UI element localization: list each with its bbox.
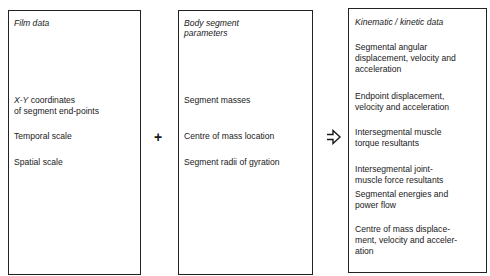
centre-of-mass-location-label: Centre of mass location <box>184 131 274 142</box>
segmental-angular-line3: acceleration <box>355 64 401 75</box>
film-data-title: Film data <box>14 18 49 28</box>
segmental-energies-line2: power flow <box>355 200 396 211</box>
body-segment-parameters-box: Body segment parameters Segment masses C… <box>178 10 313 275</box>
hollow-right-arrow-icon <box>326 129 342 145</box>
segmental-angular-line2: displacement, velocity and <box>355 53 456 64</box>
endpoint-displacement-line1: Endpoint displacement, <box>355 91 444 102</box>
segment-radii-of-gyration-label: Segment radii of gyration <box>184 157 280 168</box>
endpoint-displacement-line2: velocity and acceleration <box>355 102 449 113</box>
com-displacement-line3: ation <box>355 246 374 257</box>
segment-endpoints-label: of segment end-points <box>14 106 99 117</box>
body-segment-title-line1: Body segment <box>184 18 239 28</box>
joint-muscle-force-line2: muscle force resultants <box>355 175 443 186</box>
segmental-energies-line1: Segmental energies and <box>355 189 448 200</box>
kinematic-kinetic-data-box: Kinematic / kinetic data Segmental angul… <box>348 8 487 273</box>
film-data-box: Film data X-Y coordinates of segment end… <box>8 10 141 275</box>
joint-muscle-force-line1: Intersegmental joint- <box>355 164 433 175</box>
kinematic-kinetic-title: Kinematic / kinetic data <box>355 17 443 27</box>
com-displacement-line1: Centre of mass displace- <box>355 224 450 235</box>
xy-prefix: X-Y <box>14 95 28 105</box>
segment-masses-label: Segment masses <box>184 95 250 106</box>
xy-coordinates-label: X-Y coordinates <box>14 95 75 106</box>
temporal-scale-label: Temporal scale <box>14 131 72 142</box>
muscle-torque-line2: torque resultants <box>355 138 419 149</box>
segmental-angular-line1: Segmental angular <box>355 42 427 53</box>
com-displacement-line2: ment, velocity and acceler- <box>355 235 457 246</box>
plus-operator: + <box>154 130 162 144</box>
muscle-torque-line1: Intersegmental muscle <box>355 127 441 138</box>
body-segment-title-line2: parameters <box>184 28 227 38</box>
xy-suffix: coordinates <box>28 95 75 105</box>
spatial-scale-label: Spatial scale <box>14 157 63 168</box>
